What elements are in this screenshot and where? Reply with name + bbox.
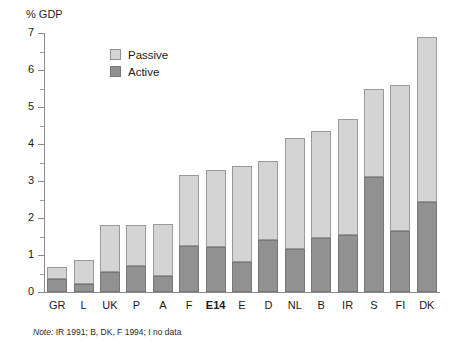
- bar-segment-passive-nl: [285, 138, 305, 249]
- bar-segment-active-e14: [206, 247, 226, 292]
- bar-segment-active-s: [364, 177, 384, 292]
- y-tick-label-6: 6: [16, 64, 34, 75]
- bar-group-e: [232, 33, 252, 292]
- chart-legend: Passive Active: [110, 46, 168, 80]
- bar-segment-passive-l: [74, 260, 94, 284]
- bar-segment-passive-e: [232, 166, 252, 261]
- bar-group-b: [311, 33, 331, 292]
- bar-segment-active-nl: [285, 249, 305, 292]
- x-axis-label-dk: DK: [407, 299, 447, 311]
- y-tick-0: [38, 292, 44, 293]
- bar-group-fi: [390, 33, 410, 292]
- bar-group-dk: [417, 33, 437, 292]
- bar-group-nl: [285, 33, 305, 292]
- legend-swatch-passive-icon: [110, 49, 121, 60]
- bar-segment-passive-ir: [338, 119, 358, 234]
- bar-segment-passive-a: [153, 224, 173, 277]
- bar-segment-passive-dk: [417, 37, 437, 203]
- note-text: IR 1991; B, DK, F 1994; I no data: [53, 327, 181, 337]
- bar-segment-passive-fi: [390, 85, 410, 231]
- bar-segment-active-b: [311, 238, 331, 292]
- plot-area: [44, 33, 440, 292]
- legend-label-active: Active: [128, 66, 159, 78]
- bar-segment-passive-p: [126, 225, 146, 266]
- bar-group-l: [74, 33, 94, 292]
- legend-item-active: Active: [110, 63, 168, 80]
- bar-segment-active-fi: [390, 231, 410, 292]
- bar-group-gr: [47, 33, 67, 292]
- bar-segment-active-gr: [47, 279, 67, 292]
- y-tick-label-5: 5: [16, 101, 34, 112]
- bar-group-ir: [338, 33, 358, 292]
- bar-segment-active-dk: [417, 202, 437, 292]
- y-tick-label-2: 2: [16, 212, 34, 223]
- chart-note: Note: IR 1991; B, DK, F 1994; I no data: [33, 327, 181, 337]
- stacked-bar-chart: % GDP 01234567 GRLUKPAFE14EDNLBIRSFIDK P…: [0, 0, 450, 354]
- bar-segment-passive-d: [258, 161, 278, 241]
- bar-group-d: [258, 33, 278, 292]
- y-tick-label-3: 3: [16, 175, 34, 186]
- y-tick-label-4: 4: [16, 138, 34, 149]
- y-tick-label-7: 7: [16, 27, 34, 38]
- bar-segment-passive-gr: [47, 267, 67, 279]
- bar-group-e14: [206, 33, 226, 292]
- bar-segment-passive-uk: [100, 225, 120, 271]
- bar-segment-active-e: [232, 262, 252, 292]
- legend-label-passive: Passive: [128, 49, 168, 61]
- bar-segment-active-p: [126, 266, 146, 292]
- bar-segment-passive-f: [179, 175, 199, 245]
- legend-item-passive: Passive: [110, 46, 168, 63]
- bar-segment-passive-b: [311, 131, 331, 238]
- bar-segment-passive-s: [364, 89, 384, 177]
- legend-swatch-active-icon: [110, 66, 121, 77]
- bar-segment-active-ir: [338, 235, 358, 292]
- x-axis-line: [44, 292, 440, 293]
- bar-segment-active-l: [74, 284, 94, 292]
- bar-segment-passive-e14: [206, 170, 226, 247]
- y-tick-label-0: 0: [16, 286, 34, 297]
- bar-segment-active-a: [153, 276, 173, 292]
- bar-group-s: [364, 33, 384, 292]
- bar-segment-active-uk: [100, 272, 120, 292]
- y-axis-title: % GDP: [26, 8, 63, 20]
- bar-segment-active-d: [258, 240, 278, 292]
- y-tick-label-1: 1: [16, 249, 34, 260]
- bar-group-f: [179, 33, 199, 292]
- bar-segment-active-f: [179, 246, 199, 292]
- note-prefix: Note:: [33, 327, 53, 337]
